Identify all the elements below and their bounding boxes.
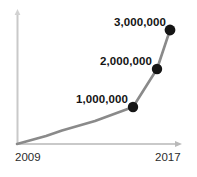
data-point-marker [152,64,162,74]
data-point-label-1000000: 1,000,000 [76,94,128,106]
data-point-marker [128,102,138,112]
x-axis-tick-label-start: 2009 [15,152,41,164]
data-point-label-3000000: 3,000,000 [114,17,166,29]
data-line-growth [17,30,170,144]
data-point-label-2000000: 2,000,000 [100,56,152,68]
line-chart: 1,000,000 2,000,000 3,000,000 2009 2017 [0,0,197,177]
y-axis-arrow-icon [15,9,21,15]
x-axis-tick-label-end: 2017 [155,152,181,164]
x-axis-arrow-icon [175,141,182,147]
data-point-marker [165,25,176,36]
